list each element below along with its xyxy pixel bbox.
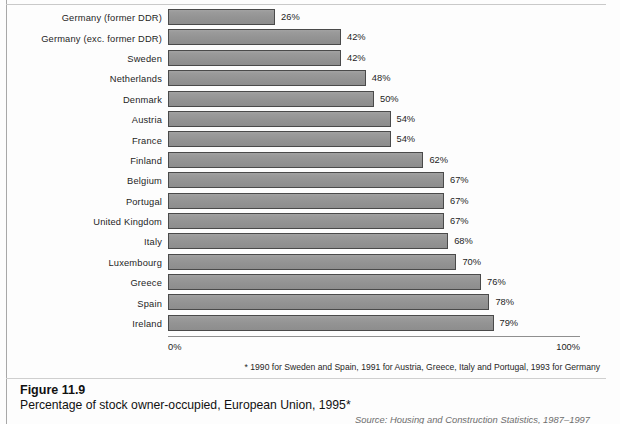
bar-row: Ireland79% [0,314,620,334]
bar-value-label: 62% [429,155,448,165]
bar-track: 76% [168,274,580,290]
bar [168,254,456,270]
bar [168,9,275,25]
x-axis-max-label: 100% [480,342,580,352]
bar-track: 68% [168,233,580,249]
bar [168,233,448,249]
caption-separator [6,378,606,379]
bar [168,274,481,290]
bar-track: 62% [168,152,580,168]
bar-value-label: 70% [462,257,481,267]
bar [168,213,444,229]
bar-value-label: 42% [347,32,366,42]
bar-row: Belgium67% [0,171,620,191]
bar [168,29,341,45]
bar-category-label: Denmark [0,95,162,105]
bar-value-label: 67% [450,196,469,206]
bar-value-label: 67% [450,175,469,185]
bar-value-label: 68% [454,236,473,246]
bar-track: 54% [168,131,580,147]
bar-chart: Germany (former DDR)26%Germany (exc. for… [0,8,620,338]
bar-value-label: 67% [450,216,469,226]
bar [168,131,391,147]
bar-row: Germany (former DDR)26% [0,8,620,28]
bar-track: 48% [168,70,580,86]
bar [168,70,366,86]
page-border-top [6,4,606,5]
bar-track: 54% [168,111,580,127]
figure-number: Figure 11.9 [20,383,85,397]
bar [168,315,494,331]
bar-track: 78% [168,294,580,310]
bar-category-label: Spain [0,299,162,309]
bar [168,91,374,107]
bar-category-label: Ireland [0,319,162,329]
bar-track: 26% [168,9,580,25]
bar-category-label: Portugal [0,197,162,207]
bar-row: Austria54% [0,110,620,130]
bar-row: Sweden42% [0,49,620,69]
bar-row: Italy68% [0,232,620,252]
bar-value-label: 42% [347,53,366,63]
chart-footnote: * 1990 for Sweden and Spain, 1991 for Au… [20,362,600,372]
bar-row: Luxembourg70% [0,253,620,273]
bar-track: 67% [168,213,580,229]
bar-category-label: Luxembourg [0,258,162,268]
bar [168,193,444,209]
bar-track: 70% [168,254,580,270]
bar-value-label: 79% [500,318,519,328]
bar-category-label: United Kingdom [0,217,162,227]
bar-row: Denmark50% [0,90,620,110]
bar-track: 42% [168,29,580,45]
bar-value-label: 54% [397,114,416,124]
bar-category-label: France [0,136,162,146]
bar-track: 50% [168,91,580,107]
bar-row: Netherlands48% [0,69,620,89]
bar [168,294,489,310]
bar-category-label: Netherlands [0,74,162,84]
bar-category-label: Sweden [0,54,162,64]
bar-category-label: Italy [0,237,162,247]
bar-category-label: Germany (former DDR) [0,13,162,23]
bar-track: 79% [168,315,580,331]
bar-category-label: Greece [0,278,162,288]
bar-value-label: 76% [487,277,506,287]
bar-row: United Kingdom67% [0,212,620,232]
bar-track: 42% [168,50,580,66]
bar-value-label: 50% [380,94,399,104]
bar-category-label: Finland [0,156,162,166]
bar [168,111,391,127]
bar [168,50,341,66]
bar-row: Finland62% [0,151,620,171]
bar-category-label: Austria [0,115,162,125]
bar-track: 67% [168,172,580,188]
bar-value-label: 48% [372,73,391,83]
figure-source: Source: Housing and Construction Statist… [355,414,615,424]
bar-value-label: 78% [495,297,514,307]
bar [168,172,444,188]
bar-row: Germany (exc. former DDR)42% [0,28,620,48]
bar [168,152,423,168]
bar-row: Portugal67% [0,192,620,212]
x-axis-line [168,336,580,337]
bar-category-label: Germany (exc. former DDR) [0,34,162,44]
bar-category-label: Belgium [0,176,162,186]
bar-track: 67% [168,193,580,209]
figure-title: Percentage of stock owner-occupied, Euro… [20,398,351,412]
figure-page: Germany (former DDR)26%Germany (exc. for… [0,0,620,424]
bar-row: Greece76% [0,273,620,293]
x-axis-min-label: 0% [168,342,181,352]
bar-value-label: 26% [281,12,300,22]
bar-value-label: 54% [397,134,416,144]
bar-row: Spain78% [0,293,620,313]
bar-row: France54% [0,130,620,150]
